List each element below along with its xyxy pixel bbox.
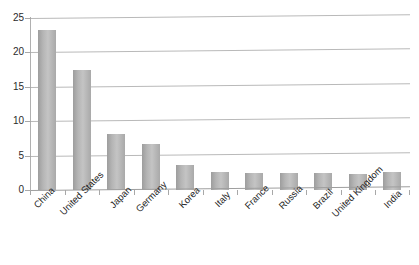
x-axis-category-labels: China United States Japan Germany Korea … — [0, 0, 419, 265]
x-label-italy: Italy — [213, 190, 232, 209]
x-label-united-states: United States — [58, 170, 105, 217]
x-label-china: China — [32, 185, 57, 210]
x-label-india: India — [382, 188, 404, 210]
x-label-germany: Germany — [134, 179, 169, 214]
x-label-japan: Japan — [108, 185, 133, 210]
x-label-france: France — [243, 183, 271, 211]
x-label-united-kingdom: United Kingdom — [330, 164, 385, 219]
x-label-korea: Korea — [177, 185, 202, 210]
bar-chart: 25 20 15 10 5 0 China United States Japa… — [0, 0, 419, 265]
x-label-russia: Russia — [277, 183, 305, 211]
